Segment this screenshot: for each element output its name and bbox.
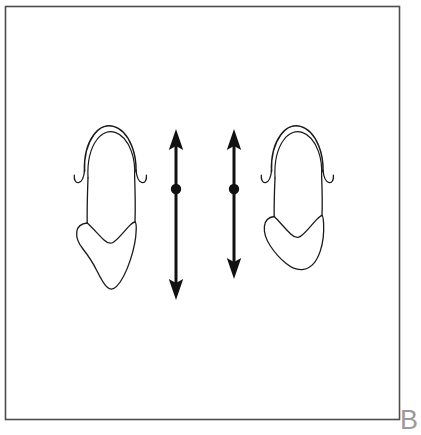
- left-measure-center-dot: [171, 184, 181, 194]
- left-tooth-body-right: [135, 176, 136, 222]
- figure-panel-b: B: [0, 0, 421, 435]
- right-measure-center-dot: [229, 184, 239, 194]
- right-tooth-body-right: [322, 176, 323, 216]
- panel-border: [6, 7, 400, 420]
- panel-label: B: [400, 407, 418, 434]
- figure-canvas: [0, 0, 421, 435]
